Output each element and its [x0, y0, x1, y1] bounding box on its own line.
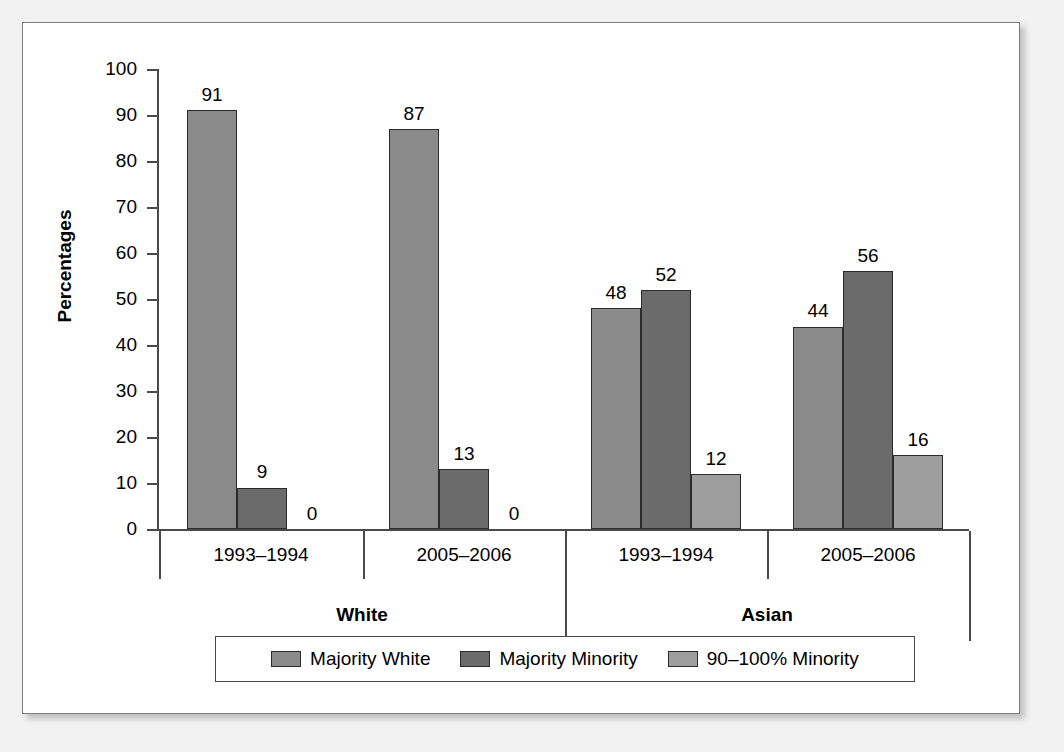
y-axis-title: Percentages [54, 186, 76, 346]
bar-value-asian-1993-90-100-minority: 12 [691, 449, 741, 468]
legend-label-majority-white: Majority White [310, 648, 430, 670]
figure-card: Percentages 100 90 80 70 60 50 40 30 20 [22, 22, 1020, 714]
y-tick-30 [147, 391, 159, 393]
bar-white-2005-majority-white [389, 129, 439, 529]
cat-label-white-2005: 2005–2006 [363, 545, 565, 564]
bar-asian-2005-majority-minority [843, 271, 893, 529]
legend-label-90-100-minority: 90–100% Minority [707, 648, 859, 670]
cat-label-asian-2005: 2005–2006 [767, 545, 969, 564]
legend-label-majority-minority: Majority Minority [499, 648, 637, 670]
bar-value-white-2005-majority-minority: 13 [439, 444, 489, 463]
cat-axis-right-edge [969, 531, 971, 641]
y-tick-90 [147, 115, 159, 117]
legend-item-majority-white: Majority White [271, 648, 430, 670]
legend-swatch-icon-90-100-minority [668, 651, 698, 667]
y-tick-label-90: 90 [83, 105, 137, 124]
y-tick-100 [147, 69, 159, 71]
chart-legend: Majority White Majority Minority 90–100%… [215, 636, 915, 682]
bar-chart: Percentages 100 90 80 70 60 50 40 30 20 [23, 23, 1019, 713]
y-tick-label-10: 10 [83, 473, 137, 492]
y-tick-label-50: 50 [83, 289, 137, 308]
y-tick-0 [147, 529, 159, 531]
y-tick-label-0: 0 [83, 519, 137, 538]
bar-value-asian-1993-majority-minority: 52 [641, 265, 691, 284]
y-tick-40 [147, 345, 159, 347]
y-tick-label-60: 60 [83, 243, 137, 262]
y-tick-80 [147, 161, 159, 163]
bar-asian-1993-majority-minority [641, 290, 691, 529]
y-tick-60 [147, 253, 159, 255]
y-tick-50 [147, 299, 159, 301]
legend-swatch-icon-majority-minority [460, 651, 490, 667]
y-tick-10 [147, 483, 159, 485]
page-background: Percentages 100 90 80 70 60 50 40 30 20 [0, 0, 1064, 752]
legend-swatch-icon-majority-white [271, 651, 301, 667]
bar-value-asian-1993-majority-white: 48 [591, 283, 641, 302]
bar-asian-1993-majority-white [591, 308, 641, 529]
bar-value-asian-2005-90-100-minority: 16 [893, 430, 943, 449]
cat-label-asian-1993: 1993–1994 [565, 545, 767, 564]
legend-item-majority-minority: Majority Minority [460, 648, 637, 670]
y-tick-70 [147, 207, 159, 209]
bar-value-white-1993-90-100-minority: 0 [287, 504, 337, 523]
bar-asian-2005-majority-white [793, 327, 843, 529]
bar-value-white-1993-majority-minority: 9 [237, 462, 287, 481]
y-tick-label-20: 20 [83, 427, 137, 446]
bar-white-1993-majority-minority [237, 488, 287, 529]
bar-value-asian-2005-majority-white: 44 [793, 301, 843, 320]
y-tick-label-30: 30 [83, 381, 137, 400]
y-tick-label-100: 100 [83, 59, 137, 78]
y-tick-20 [147, 437, 159, 439]
plot-area: 91 9 0 87 13 0 48 52 12 44 [159, 69, 969, 529]
bar-value-white-1993-majority-white: 91 [187, 85, 237, 104]
y-tick-label-70: 70 [83, 197, 137, 216]
bar-asian-2005-90-100-minority [893, 455, 943, 529]
category-axis: 1993–1994 2005–2006 1993–1994 2005–2006 … [159, 531, 971, 649]
bar-value-white-2005-90-100-minority: 0 [489, 504, 539, 523]
legend-item-90-100-minority: 90–100% Minority [668, 648, 859, 670]
bar-value-white-2005-majority-white: 87 [389, 104, 439, 123]
group-label-white: White [159, 605, 565, 624]
bar-white-2005-majority-minority [439, 469, 489, 529]
bar-value-asian-2005-majority-minority: 56 [843, 246, 893, 265]
y-tick-label-80: 80 [83, 151, 137, 170]
cat-label-white-1993: 1993–1994 [159, 545, 363, 564]
y-tick-label-40: 40 [83, 335, 137, 354]
bar-asian-1993-90-100-minority [691, 474, 741, 529]
bar-white-1993-majority-white [187, 110, 237, 529]
group-label-asian: Asian [565, 605, 969, 624]
